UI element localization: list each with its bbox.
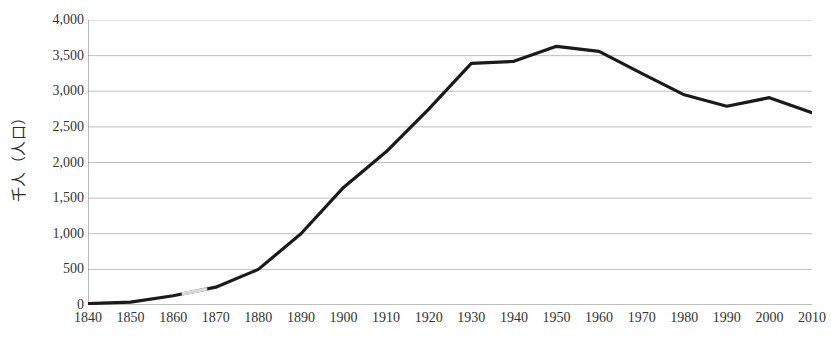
x-tick-label: 2010: [782, 308, 831, 328]
y-axis-tick-labels: 4,0003,5003,0002,5002,0001,5001,0005000: [30, 12, 84, 306]
y-tick-label: 2,500: [30, 119, 84, 135]
series-line: [88, 46, 812, 303]
y-axis-title: 千人（人口）: [0, 0, 34, 310]
y-tick-label: 4,000: [30, 12, 84, 28]
y-axis-title-text: 千人（人口）: [7, 109, 28, 202]
y-tick-label: 1,500: [30, 190, 84, 206]
plot-svg: [88, 20, 812, 305]
x-axis-tick-labels: 1840185018601870188018901900191019201930…: [88, 308, 812, 332]
plot-area: [88, 20, 812, 305]
y-tick-label: 2,000: [30, 155, 84, 171]
y-tick-label: 3,500: [30, 48, 84, 64]
y-tick-label: 3,000: [30, 83, 84, 99]
y-tick-label: 1,000: [30, 226, 84, 242]
y-tick-label: 500: [30, 261, 84, 277]
